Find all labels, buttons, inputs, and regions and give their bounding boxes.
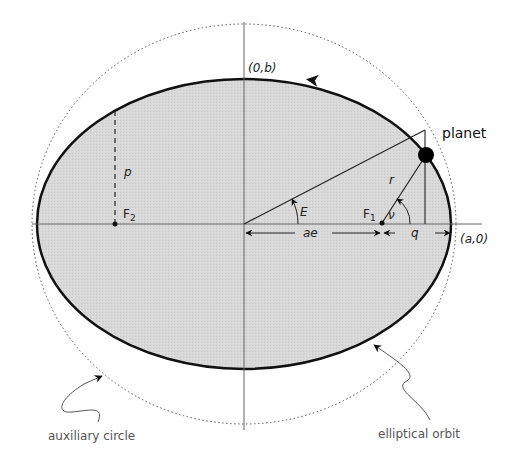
focus-1-dot <box>380 221 385 226</box>
planet-label: planet <box>442 125 487 141</box>
auxiliary-circle-callout <box>62 376 102 422</box>
orbit-diagram: (0,b) (a,0) planet p F2 F1 E ν r ae q au… <box>0 0 518 470</box>
focal-offset-label: ae <box>303 226 318 240</box>
top-vertex-label: (0,b) <box>248 61 276 75</box>
planet-marker <box>418 147 434 163</box>
perihelion-distance-label: q <box>411 226 419 240</box>
eccentric-anomaly-label: E <box>300 205 308 219</box>
true-anomaly-label: ν <box>388 208 395 222</box>
right-vertex-label: (a,0) <box>460 232 488 246</box>
elliptical-orbit-label: elliptical orbit <box>378 427 460 441</box>
auxiliary-circle-label: auxiliary circle <box>48 429 135 443</box>
semi-latus-rectum-label: p <box>123 165 132 179</box>
elliptical-orbit-callout <box>374 345 430 420</box>
focus-2-dot <box>113 222 118 227</box>
